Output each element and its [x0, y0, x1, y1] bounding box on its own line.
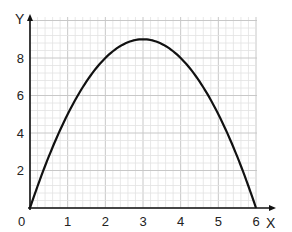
- x-tick: 4: [177, 214, 184, 229]
- y-axis-arrow-icon: [27, 14, 33, 21]
- origin-label: 0: [18, 214, 25, 229]
- axes: [27, 14, 276, 211]
- y-tick-labels: 2 4 6 8: [17, 51, 24, 179]
- x-tick: 5: [215, 214, 222, 229]
- grid: [30, 17, 257, 208]
- x-tick: 1: [64, 214, 71, 229]
- x-tick: 3: [139, 214, 146, 229]
- y-tick: 8: [17, 51, 24, 66]
- x-axis-arrow-icon: [269, 205, 276, 211]
- y-axis-label: Y: [15, 11, 25, 27]
- parabola-chart: Y X 0 1 2 3 4 5 6 2 4 6 8: [0, 0, 292, 232]
- x-tick: 6: [252, 214, 259, 229]
- x-tick: 2: [102, 214, 109, 229]
- y-tick: 2: [17, 163, 24, 178]
- x-tick-labels: 1 2 3 4 5 6: [64, 214, 260, 229]
- y-tick: 6: [17, 88, 24, 103]
- y-tick: 4: [17, 126, 24, 141]
- x-axis-label: X: [266, 215, 276, 231]
